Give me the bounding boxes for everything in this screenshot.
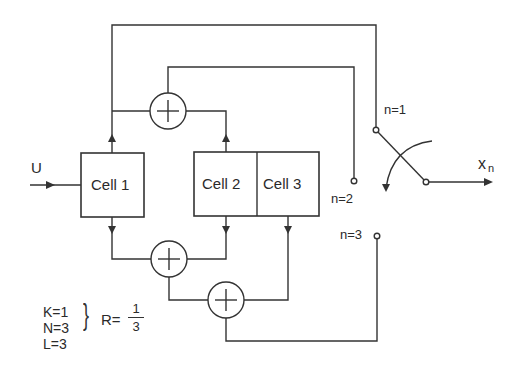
rate-prefix: R= xyxy=(101,312,121,327)
terminal-n1 xyxy=(373,127,379,133)
output-label: xn xyxy=(478,156,494,172)
encoder-diagram xyxy=(0,0,523,381)
terminal-n3 xyxy=(374,233,380,239)
adder-bottom-1 xyxy=(151,241,187,277)
output-label-x: x xyxy=(478,155,486,172)
brace: } xyxy=(83,300,89,330)
param-k: K=1 xyxy=(43,304,69,320)
switch-label-n1: n=1 xyxy=(384,103,406,116)
rate-fraction: 1 3 xyxy=(128,302,144,333)
adder-bottom-2 xyxy=(208,282,244,318)
parameter-list: K=1 N=3 L=3 xyxy=(43,304,69,352)
param-l: L=3 xyxy=(43,336,69,352)
input-label: U xyxy=(31,160,42,175)
cell-1-label: Cell 1 xyxy=(91,177,129,192)
param-n: N=3 xyxy=(43,320,69,336)
adder-top xyxy=(150,93,186,129)
rate-numerator: 1 xyxy=(128,302,144,315)
commutator-switch xyxy=(376,130,493,192)
cell-2-label: Cell 2 xyxy=(202,176,240,191)
fraction-bar xyxy=(128,317,144,318)
terminal-n2 xyxy=(351,178,357,184)
cell-3-label: Cell 3 xyxy=(263,176,301,191)
switch-pivot xyxy=(423,179,429,185)
input-wire xyxy=(30,181,81,189)
switch-label-n2: n=2 xyxy=(331,192,353,205)
output-subscript: n xyxy=(488,162,494,174)
rate-denominator: 3 xyxy=(128,320,144,333)
switch-label-n3: n=3 xyxy=(340,228,362,241)
bottom-wires xyxy=(108,216,377,341)
